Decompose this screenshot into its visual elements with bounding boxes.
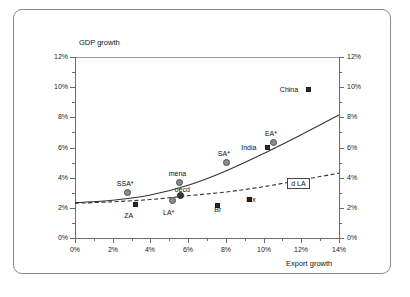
trend-curves bbox=[0, 0, 410, 297]
fitted-curve-solid bbox=[75, 115, 339, 203]
chart-canvas: GDP growth Export growth 0%2%4%6%8%10%12… bbox=[0, 0, 410, 297]
dla-annotation-label: d LA bbox=[287, 178, 309, 189]
